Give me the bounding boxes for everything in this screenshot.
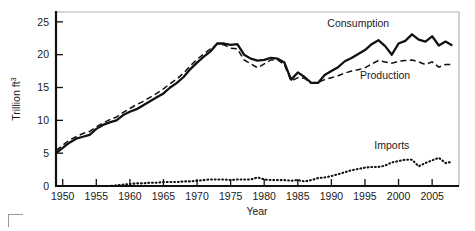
x-tick-label: 1960: [118, 190, 142, 202]
series-label-imports: Imports: [374, 139, 409, 151]
series-label-consumption: Consumption: [327, 17, 389, 29]
svg-text:Trillion ft3: Trillion ft3: [9, 77, 22, 120]
y-tick-label: 0: [43, 180, 49, 192]
series-label-production: Production: [360, 69, 410, 81]
x-tick-label: 1950: [51, 190, 75, 202]
x-axis-title: Year: [246, 205, 268, 217]
crop-registration-mark: [8, 214, 23, 227]
chart-figure: 0510152025 19501955196019651970197519801…: [0, 0, 475, 231]
x-tick-label: 2005: [420, 190, 444, 202]
x-tick-label: 1975: [219, 190, 243, 202]
y-axis-title: Trillion ft3: [9, 77, 22, 120]
y-axis-title-text: Trillion ft: [10, 81, 22, 120]
x-tick-label: 1955: [85, 190, 109, 202]
y-axis-title-superscript: 3: [9, 77, 18, 81]
x-tick-label: 2000: [387, 190, 411, 202]
x-tick-label: 1965: [152, 190, 176, 202]
x-tick-label: 1990: [320, 190, 344, 202]
x-tick-label: 1970: [185, 190, 209, 202]
y-tick-label: 20: [37, 48, 49, 60]
y-tick-label: 15: [37, 81, 49, 93]
y-tick-label: 10: [37, 114, 49, 126]
natural-gas-line-chart: 0510152025 19501955196019651970197519801…: [0, 0, 475, 231]
x-tick-label: 1985: [286, 190, 310, 202]
x-tick-label: 1995: [353, 190, 377, 202]
x-tick-label: 1980: [253, 190, 277, 202]
y-tick-label: 5: [43, 147, 49, 159]
y-tick-label: 25: [37, 16, 49, 28]
